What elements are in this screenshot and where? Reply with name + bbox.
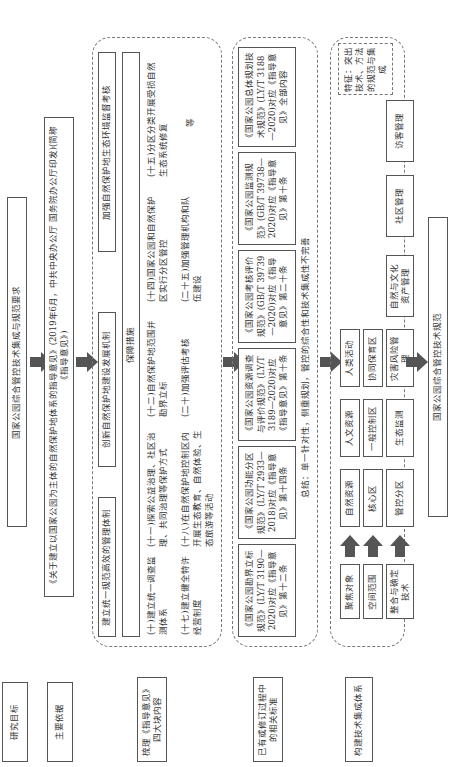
review-header-2: 创新自然保护地建设发展机制 <box>98 312 116 467</box>
system-left-2: 空间范围 <box>363 564 383 619</box>
system-cell: 人类活动 <box>340 329 360 387</box>
review-item: (十一)探索公益治理、社区治理、共同治理等保护方式 <box>146 427 170 547</box>
review-item: (十四)国家公园和自然保护区实行分区管控 <box>146 192 170 302</box>
system-cell: 访客管理 <box>386 100 414 162</box>
review-etc: 等 <box>185 97 197 127</box>
label-goal: 研究目标 <box>2 682 28 762</box>
review-header-1: 建立统一规范高效的管理体制 <box>98 497 116 637</box>
label-standards: 已有或修订过程中的相关标准 <box>253 677 283 762</box>
system-cell: 人文资源 <box>340 399 360 457</box>
review-item: (二十)加强评估考核 <box>180 317 192 417</box>
system-cell: 管控分区 <box>386 469 414 527</box>
system-cell: 生态监测 <box>386 399 414 457</box>
standards-summary: 总结：单一针对性，侧重规划，管控的综合性和技术集成性不完善 <box>300 167 312 567</box>
standard-card: 《国家公园功能分区规范》(LY/T 2933—2018)对应《指导意见》第十四条 <box>238 446 296 539</box>
arrow-down-icon <box>406 352 428 372</box>
arrow-right-icon <box>390 535 410 557</box>
goal-box: 国家公园综合管控技术集成与规范要求 <box>7 197 27 527</box>
result-box: 国家公园综合管控技术规范 <box>428 217 448 517</box>
system-cell: 核心区 <box>363 469 383 527</box>
standard-card: 《国家公园资源调查与评价规范》(LY/T 3189—2020)对应《指导意见》第… <box>238 348 296 441</box>
system-cell: 一般控制区 <box>363 399 383 457</box>
review-subheader: 保障措施 <box>125 327 136 363</box>
standard-card: 《国家公园勘界立标规范》(LY/T 3190—2020)对应《指导意见》第十二条 <box>238 544 296 637</box>
system-cell: 自然资源 <box>340 469 360 527</box>
label-basis: 主要依据 <box>47 682 73 762</box>
system-cell: 自然与文化资产管理 <box>386 255 414 317</box>
standard-card: 《国家公园监测规范》(GB/T 39738—2020)对应《指导意见》第十条 <box>238 152 296 245</box>
system-cell: 社区管理 <box>386 175 414 237</box>
system-left-1: 聚焦对象 <box>340 564 360 619</box>
standard-card: 《国家公园考核评价规范》(GB/T 39739—2020)对应《指导意见》第二十… <box>238 250 296 343</box>
system-cell: 协同保育区 <box>363 329 383 387</box>
system-feature-note: 特征：突出技术、方法的规范与集成 <box>338 43 393 95</box>
review-header-3: 加强自然保护地生态环境监督考核 <box>98 52 116 252</box>
review-item: (十二)自然保护地范围并勘界立标 <box>146 317 170 417</box>
review-item: (二十五)加强管理机构和队伍建设 <box>180 192 204 302</box>
system-left-3: 整合与确定技术 <box>386 564 414 619</box>
label-system: 构建技术集成体系 <box>345 677 373 762</box>
label-review: 梳理《指导意见》四大块内容 <box>137 677 167 762</box>
review-item: (十七)建立健全特许经营制度 <box>180 555 204 635</box>
standard-card: 《国家公园总体规划技术规范》(LY/T 3188—2020)对应《指导意见》全部… <box>238 47 296 147</box>
basis-box: 《关于建立以国家公园为主体的自然保护地体系的指导意见》(2019年6月，中共中央… <box>44 117 74 597</box>
arrow-right-icon <box>363 535 383 557</box>
review-subheader-box: 保障措施 <box>122 52 140 637</box>
review-item: (十五)分区分类开展受损自然生态系统修复 <box>146 57 170 177</box>
diagram-canvas: 研究目标 主要依据 梳理《指导意见》四大块内容 已有或修订过程中的相关标准 构建… <box>0 0 453 767</box>
arrow-right-icon <box>340 535 360 557</box>
review-item: (十八)在自然保护地控制区内开展生态教育、自然体验、生态旅游等活动 <box>180 427 216 547</box>
review-item: (十)建立统一调查监测体系 <box>146 555 170 635</box>
